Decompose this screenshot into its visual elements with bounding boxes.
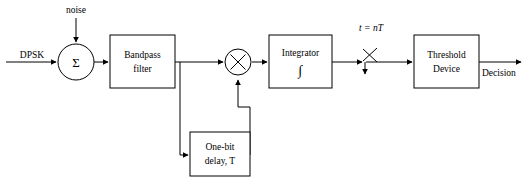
bandpass-filter-block (110, 35, 175, 88)
noise-input-label: noise (66, 5, 86, 15)
summing-junction-symbol: Σ (72, 55, 80, 70)
integrator-block (269, 35, 332, 88)
decision-output-label: Decision (482, 68, 516, 78)
bandpass-filter-label-line1: Bandpass (124, 50, 161, 60)
sampler-pivot-mark (363, 48, 377, 61)
block-diagram: Σ Bandpass filter Integrator ∫ t = nT Th… (0, 0, 527, 193)
threshold-device-label-line2: Device (433, 64, 460, 74)
threshold-device-label-line1: Threshold (427, 50, 466, 60)
wire-tap-to-delay (180, 62, 188, 155)
bandpass-filter-label-line2: filter (133, 64, 152, 74)
dpsk-input-label: DPSK (20, 50, 44, 60)
sampler-blade (363, 49, 377, 62)
diagram-canvas: Σ Bandpass filter Integrator ∫ t = nT Th… (0, 0, 527, 193)
one-bit-delay-label-line1: One-bit (205, 142, 234, 152)
one-bit-delay-block (190, 132, 250, 176)
integrator-label-line1: Integrator (282, 48, 320, 58)
threshold-device-block (414, 35, 479, 88)
sampling-instant-label: t = nT (359, 23, 384, 33)
one-bit-delay-label-line2: delay, T (205, 156, 236, 166)
